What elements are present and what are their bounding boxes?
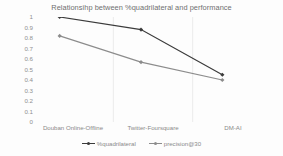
y-axis-tick-label: 0.3	[13, 87, 33, 94]
series-line	[60, 17, 223, 75]
y-axis-tick-label: 0.2	[13, 97, 33, 104]
y-axis-tick-label: 0.1	[13, 108, 33, 115]
legend-item-precision[interactable]: precision@30	[149, 140, 201, 147]
y-axis-tick-label: 0.7	[13, 45, 33, 52]
line-chart: Relationsihp between %quadrilateral and …	[0, 0, 283, 156]
plot-area	[34, 17, 272, 122]
chart-legend: %quadrilateral precision@30	[0, 140, 283, 147]
y-axis-tick-label: 0.5	[13, 66, 33, 73]
legend-marker-icon	[149, 140, 162, 147]
legend-label: %quadrilateral	[97, 140, 136, 147]
legend-label: precision@30	[164, 140, 201, 147]
y-axis-tick-label: 0.8	[13, 34, 33, 41]
series-line	[60, 36, 223, 80]
y-axis-tick-label: 0.9	[13, 24, 33, 31]
legend-marker-icon	[82, 140, 95, 147]
plot-svg	[34, 17, 272, 122]
x-axis: Douban Online-Offline Twitter-Foursquare…	[34, 124, 272, 136]
y-axis-tick-label: 0	[13, 118, 33, 125]
x-axis-tick-label: Twitter-Foursquare	[127, 124, 178, 131]
legend-item-quadrilateral[interactable]: %quadrilateral	[82, 140, 136, 147]
y-axis-tick-label: 1	[13, 13, 33, 20]
data-point-marker	[139, 60, 143, 64]
y-axis-tick-label: 0.4	[13, 76, 33, 83]
y-axis: 1 0.9 0.8 0.7 0.6 0.5 0.4 0.3 0.2 0.1 0	[13, 13, 33, 126]
x-axis-tick-label: Douban Online-Offline	[43, 124, 103, 131]
data-point-marker	[220, 78, 224, 82]
x-axis-tick-label: DM-AI	[224, 124, 241, 131]
chart-title: Relationsihp between %quadrilateral and …	[0, 3, 283, 12]
data-point-marker	[58, 17, 62, 19]
y-axis-tick-label: 0.6	[13, 55, 33, 62]
data-point-marker	[58, 34, 62, 38]
